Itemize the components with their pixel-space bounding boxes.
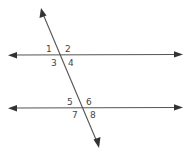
angle-label-6: 6 [86, 97, 92, 107]
arrow-right-icon [174, 51, 183, 57]
angle-label-8: 8 [90, 110, 96, 120]
angle-label-7: 7 [72, 110, 78, 120]
arrow-up-icon [40, 8, 47, 18]
transversal-line [40, 8, 101, 148]
angle-label-5: 5 [67, 97, 73, 107]
angle-label-1: 1 [46, 44, 52, 54]
arrow-right-icon [174, 104, 183, 110]
parallel-line-top [8, 51, 183, 58]
arrow-left-icon [8, 105, 17, 111]
arrow-left-icon [8, 52, 17, 58]
arrow-down-icon [94, 137, 101, 148]
transversal-diagram: 1 2 3 4 5 6 7 8 [0, 0, 187, 163]
angle-label-3: 3 [51, 58, 57, 68]
angle-label-4: 4 [68, 58, 74, 68]
angle-label-2: 2 [65, 44, 71, 54]
